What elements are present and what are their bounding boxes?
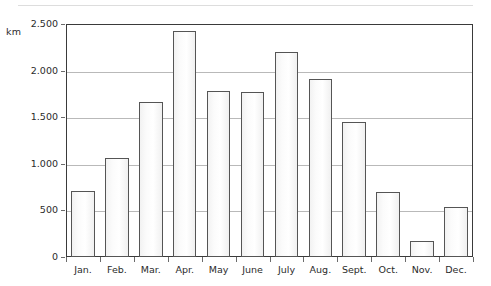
x-axis-tick-label: Nov.: [412, 264, 433, 275]
x-axis-tick-label: July: [278, 264, 295, 275]
x-axis-tick: [168, 257, 169, 262]
x-axis-tick-label: Sept.: [342, 264, 367, 275]
x-axis-tick: [202, 257, 203, 262]
x-axis-tick-label: Apr.: [175, 264, 194, 275]
x-axis-tick-label: Aug.: [310, 264, 332, 275]
x-axis-tick-label: Jan.: [74, 264, 92, 275]
x-axis-tick-label: Oct.: [378, 264, 397, 275]
x-axis-tick: [371, 257, 372, 262]
bar-chart: km 05001.0001.5002.0002.500 Jan.Feb.Mar.…: [0, 0, 491, 286]
x-axis-tick-label: Feb.: [107, 264, 127, 275]
x-axis-tick: [66, 257, 67, 262]
x-axis-tick: [134, 257, 135, 262]
x-axis-tick-label: Dec.: [445, 264, 466, 275]
x-axis-tick: [405, 257, 406, 262]
x-axis: Jan.Feb.Mar.Apr.MayJuneJulyAug.Sept.Oct.…: [0, 0, 491, 286]
x-axis-tick: [270, 257, 271, 262]
x-axis-tick-label: May: [209, 264, 229, 275]
x-axis-tick: [473, 257, 474, 262]
x-axis-tick: [303, 257, 304, 262]
x-axis-tick: [337, 257, 338, 262]
x-axis-tick-label: Mar.: [141, 264, 161, 275]
x-axis-tick: [439, 257, 440, 262]
x-axis-tick-label: June: [242, 264, 263, 275]
x-axis-tick: [236, 257, 237, 262]
x-axis-tick: [100, 257, 101, 262]
